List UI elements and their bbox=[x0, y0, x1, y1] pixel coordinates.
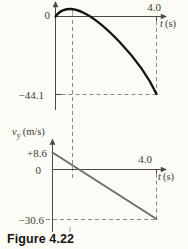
t-units: (s) bbox=[163, 171, 174, 182]
position-tmax-label: 4.0 bbox=[143, 1, 165, 13]
position-curve bbox=[56, 9, 157, 94]
position-chart bbox=[53, 1, 167, 110]
position-ymin-label: −44.1 bbox=[10, 89, 44, 101]
velocity-t-axis-label: t(s) bbox=[158, 171, 174, 183]
position-y-axis-arrow-icon bbox=[53, 1, 59, 7]
t-symbol: t bbox=[160, 18, 163, 29]
velocity-y-axis-label: vy(m/s) bbox=[12, 126, 45, 142]
velocity-origin-label: 0 bbox=[25, 164, 41, 176]
velocity-v0-label: +8.6 bbox=[20, 147, 47, 159]
figure-caption: Figure 4.22 bbox=[7, 232, 74, 246]
v-units: (m/s) bbox=[23, 126, 45, 137]
kinematics-graphs-canvas bbox=[0, 0, 188, 249]
velocity-y-axis-arrow-icon bbox=[50, 139, 56, 145]
position-t-axis-label: t(s) bbox=[160, 18, 176, 30]
position-origin-label: 0 bbox=[30, 9, 50, 21]
velocity-tmax-label: 4.0 bbox=[134, 153, 156, 165]
t-units: (s) bbox=[165, 18, 176, 29]
v-subscript: y bbox=[17, 131, 21, 140]
figure-4-22: 0 4.0 t(s) −44.1 vy(m/s) +8.6 0 4.0 t(s)… bbox=[0, 0, 188, 249]
velocity-vmin-label: −30.6 bbox=[10, 214, 44, 226]
t-symbol: t bbox=[158, 171, 161, 182]
